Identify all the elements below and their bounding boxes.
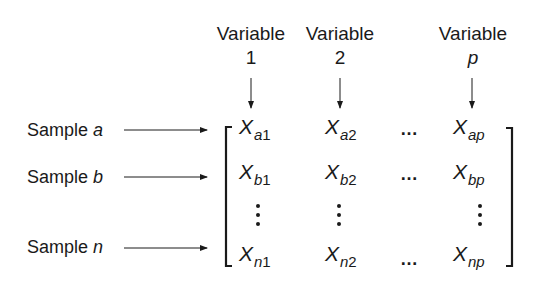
row-label-prefix: Sample [27, 167, 93, 187]
column-header-2: Variable [295, 24, 385, 43]
matrix-symbol: X [453, 115, 467, 138]
horizontal-ellipsis-b: … [400, 165, 419, 183]
subscript-col: p [476, 171, 484, 188]
column-header-p: Variable [428, 24, 518, 43]
subscript-col: 1 [262, 171, 270, 188]
row-label-a: Sample a [27, 121, 103, 139]
column-index-2: 2 [295, 48, 385, 67]
column-index-1: 1 [206, 48, 296, 67]
matrix-cell-np: Xnp [453, 243, 485, 269]
vertical-ellipsis-col2 [337, 204, 341, 231]
matrix-symbol: X [325, 242, 339, 265]
subscript-col: 2 [348, 253, 356, 270]
matrix-cell-b1: Xb1 [239, 161, 271, 187]
matrix-symbol: X [325, 115, 339, 138]
row-label-var: b [93, 167, 103, 187]
vertical-ellipsis-colp [478, 204, 482, 231]
column-index-p: p [428, 48, 518, 67]
column-header-1: Variable [206, 24, 296, 43]
matrix-cell-a1: Xa1 [239, 116, 271, 142]
row-label-prefix: Sample [27, 237, 93, 257]
vertical-ellipsis-col1 [256, 204, 260, 231]
subscript-col: 1 [262, 253, 270, 270]
row-label-n: Sample n [27, 238, 103, 256]
matrix-symbol: X [239, 242, 253, 265]
matrix-cell-n2: Xn2 [325, 243, 357, 269]
row-label-var: n [93, 237, 103, 257]
row-label-b: Sample b [27, 168, 103, 186]
row-label-prefix: Sample [27, 120, 93, 140]
matrix-symbol: X [325, 160, 339, 183]
matrix-symbol: X [239, 160, 253, 183]
subscript-col: 2 [348, 126, 356, 143]
matrix-symbol: X [239, 115, 253, 138]
horizontal-ellipsis-a: … [400, 120, 419, 138]
subscript-col: 2 [348, 171, 356, 188]
subscript-col: p [476, 126, 484, 143]
horizontal-ellipsis-n: … [400, 250, 419, 268]
matrix-cell-a2: Xa2 [325, 116, 357, 142]
matrix-symbol: X [453, 242, 467, 265]
row-label-var: a [93, 120, 103, 140]
matrix-cell-bp: Xbp [453, 161, 485, 187]
matrix-cell-b2: Xb2 [325, 161, 357, 187]
matrix-cell-n1: Xn1 [239, 243, 271, 269]
matrix-cell-ap: Xap [453, 116, 485, 142]
left-bracket [226, 127, 232, 266]
subscript-col: 1 [262, 126, 270, 143]
subscript-col: p [476, 253, 484, 270]
right-bracket [506, 128, 512, 266]
matrix-symbol: X [453, 160, 467, 183]
